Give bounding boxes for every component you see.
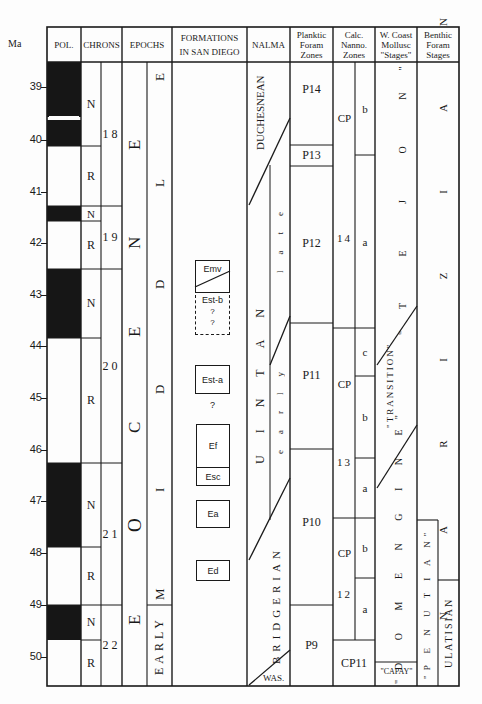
- chart-gridlines: [0, 0, 482, 704]
